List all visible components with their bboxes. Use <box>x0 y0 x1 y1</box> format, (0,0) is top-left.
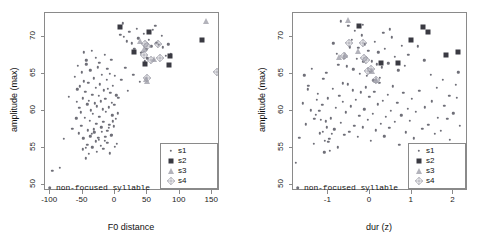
data-point-s1 <box>98 61 100 63</box>
legend-item-s4[interactable]: s4 <box>413 176 460 186</box>
data-point-s1 <box>112 125 114 127</box>
legend-item-s1[interactable]: s1 <box>165 146 212 156</box>
data-point-s1 <box>76 88 78 90</box>
x-tick <box>452 190 453 194</box>
data-point-s1 <box>316 99 318 101</box>
data-point-s1 <box>131 42 133 44</box>
data-point-s1 <box>321 130 323 132</box>
legend-item-s3[interactable]: s3 <box>413 166 460 176</box>
y-axis-title-left: amplitude (max) <box>0 95 46 105</box>
figure-root: -100-50050100150 5055606570 F0 distance … <box>0 0 495 240</box>
data-point-s1 <box>81 97 83 99</box>
data-point-s1 <box>105 79 107 81</box>
data-point-s1 <box>113 104 115 106</box>
legend-item-s1[interactable]: s1 <box>413 146 460 156</box>
data-point-s1 <box>341 82 343 84</box>
legend-label-s4: s4 <box>425 176 434 186</box>
y-tick-label-text: 55 <box>276 138 285 154</box>
data-point-s1 <box>345 111 347 113</box>
legend-right: s1 s2 s3 <box>408 143 466 189</box>
data-point-s1 <box>127 90 129 92</box>
data-point-s1 <box>132 73 134 75</box>
data-point-s1 <box>404 131 406 133</box>
legend-item-s4[interactable]: s4 <box>165 176 212 186</box>
data-point-s1 <box>123 36 125 38</box>
data-point-s1 <box>89 69 91 71</box>
data-point-s1 <box>96 150 98 152</box>
data-point-s4 <box>141 40 149 48</box>
data-point-s1 <box>51 170 53 172</box>
x-tick-label: 1 <box>409 195 413 204</box>
data-point-s4 <box>213 68 218 76</box>
data-point-s1 <box>83 51 85 53</box>
data-point-s2 <box>443 53 448 58</box>
x-tick-label: 100 <box>172 195 185 204</box>
data-point-s1 <box>105 110 107 112</box>
legend-label-s1: s1 <box>177 146 186 156</box>
data-point-s1 <box>433 133 435 135</box>
data-point-s1 <box>353 125 355 127</box>
data-point-s4 <box>367 65 375 73</box>
data-point-s1 <box>117 96 119 98</box>
data-point-s1 <box>120 79 122 81</box>
legend-item-s2[interactable]: s2 <box>165 156 212 166</box>
data-point-s1 <box>340 20 342 22</box>
y-tick <box>41 73 45 74</box>
data-point-s1 <box>94 87 96 89</box>
data-point-s1 <box>125 40 127 42</box>
data-point-s1 <box>394 121 396 123</box>
data-point-s1 <box>89 119 91 121</box>
data-point-s1 <box>384 47 386 49</box>
data-point-s1 <box>424 106 426 108</box>
data-point-s1 <box>383 135 385 137</box>
y-tick-label: 50 <box>24 179 40 188</box>
y-tick-label: 60 <box>24 105 40 114</box>
data-point-s1 <box>107 106 109 108</box>
data-point-s1 <box>417 45 419 47</box>
data-point-s4 <box>372 76 380 84</box>
data-point-s1 <box>338 95 340 97</box>
data-point-s1 <box>94 56 96 58</box>
data-point-s1 <box>329 150 331 152</box>
data-point-s1 <box>100 145 102 147</box>
data-point-s1 <box>85 157 87 159</box>
data-point-s1 <box>374 41 376 43</box>
data-point-s1 <box>109 73 111 75</box>
data-point-s1 <box>317 93 319 95</box>
data-point-s1 <box>98 95 100 97</box>
y-tick-label-text: 70 <box>28 27 37 43</box>
y-tick-label-text: 65 <box>28 64 37 80</box>
legend-item-s3[interactable]: s3 <box>165 166 212 176</box>
data-point-s1 <box>346 65 348 67</box>
data-point-s1 <box>448 95 450 97</box>
x-tick-label: -1 <box>324 195 331 204</box>
data-point-s1 <box>75 117 77 119</box>
data-point-s1 <box>114 118 116 120</box>
data-point-s1 <box>356 58 358 60</box>
data-point-s1 <box>307 84 309 86</box>
data-point-s1 <box>164 55 166 57</box>
data-point-s1 <box>390 110 392 112</box>
data-point-s4 <box>154 40 162 48</box>
non-focused-syllable-annotation-right: non-focused syllable <box>294 183 398 192</box>
x-axis-title-left: F0 distance <box>108 222 155 232</box>
y-tick-label-text: 50 <box>276 176 285 192</box>
data-point-s1 <box>93 131 95 133</box>
data-point-s1 <box>84 90 86 92</box>
y-tick <box>289 36 293 37</box>
data-point-s1 <box>346 83 348 85</box>
x-tick-label: -100 <box>41 195 57 204</box>
data-point-s1 <box>358 115 360 117</box>
data-point-s1 <box>446 118 448 120</box>
data-point-s1 <box>400 114 402 116</box>
legend-item-s2[interactable]: s2 <box>413 156 460 166</box>
data-point-s1 <box>323 151 325 153</box>
data-point-s1 <box>373 90 375 92</box>
data-point-s1 <box>385 116 387 118</box>
data-point-s1 <box>85 147 87 149</box>
legend-label-s3: s3 <box>177 166 186 176</box>
legend-label-s2: s2 <box>425 156 434 166</box>
data-point-s1 <box>85 63 87 65</box>
data-point-s1 <box>440 130 442 132</box>
data-point-s1 <box>388 127 390 129</box>
